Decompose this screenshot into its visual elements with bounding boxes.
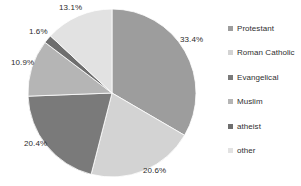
slice-label-protestant: 33.4% [180,35,203,44]
legend-item-label: Muslim [237,97,263,106]
chart-legend: ProtestantRoman CatholicEvangelicalMusli… [228,16,301,166]
pie-slice-group [28,9,196,177]
legend-item-label: Protestant [237,24,274,33]
legend-item[interactable]: other [228,139,301,164]
slice-label-roman-catholic: 20.6% [143,166,166,175]
legend-item-label: Roman Catholic [237,48,295,57]
slice-label-evangelical: 20.4% [24,139,47,148]
legend-swatch-icon [228,148,233,153]
legend-item[interactable]: Muslim [228,90,301,115]
slice-label-muslim: 10.9% [11,58,34,67]
legend-item[interactable]: Evangelical [228,65,301,90]
legend-item-label: atheist [237,122,261,131]
legend-swatch-icon [228,26,233,31]
pie-plot-area: 33.4% 20.6% 20.4% 10.9% 1.6% 13.1% [0,0,225,186]
legend-item[interactable]: Roman Catholic [228,41,301,66]
legend-item[interactable]: atheist [228,114,301,139]
legend-item-label: Evangelical [237,73,278,82]
slice-label-other: 13.1% [59,3,82,12]
legend-swatch-icon [228,99,233,104]
legend-item[interactable]: Protestant [228,16,301,41]
legend-swatch-icon [228,124,233,129]
pie-chart-figure: 33.4% 20.6% 20.4% 10.9% 1.6% 13.1% Prote… [0,0,301,186]
legend-swatch-icon [228,75,233,80]
slice-label-atheist: 1.6% [29,27,48,36]
legend-swatch-icon [228,50,233,55]
legend-item-label: other [237,146,255,155]
